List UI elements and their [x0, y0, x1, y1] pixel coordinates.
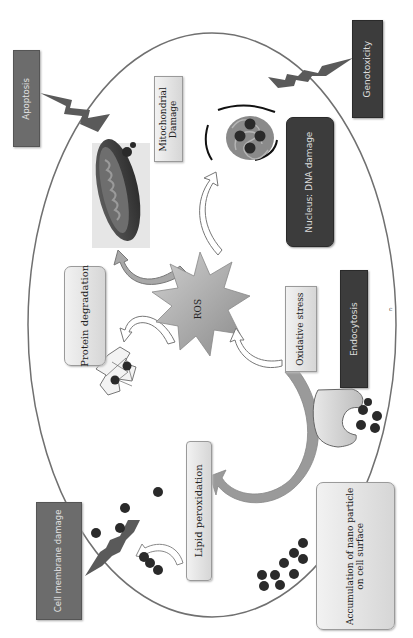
- arrow-oxidative-to-lipid: [210, 368, 319, 503]
- accumulation-line2: on cell surface: [356, 487, 366, 625]
- cell-membrane-damage-label: Cell membrane damage: [36, 502, 82, 620]
- nucleus-dna-damage-label: Nucleus: DNA damage: [286, 117, 334, 247]
- ros-label: ROS: [193, 299, 203, 319]
- diagram-canvas: Apoptosis Genotoxicity Cell membrane dam…: [0, 0, 413, 638]
- protein-degradation-label: Protein degradation: [64, 266, 106, 366]
- nucleus-icon: [206, 105, 277, 160]
- accumulation-label: Accumulation of nano particle on cell su…: [316, 482, 395, 630]
- stray-mark: c: [389, 305, 392, 312]
- accumulation-line1: Accumulation of nano particle: [345, 487, 355, 625]
- genotoxicity-label: Genotoxicity: [352, 20, 383, 118]
- mitochondrion-icon: [88, 135, 150, 248]
- mitochondrial-damage-label: Mitochondrial Damage: [154, 76, 183, 162]
- endocytosis-label: Endocytosis: [340, 270, 368, 388]
- apoptosis-label: Apoptosis: [13, 50, 40, 147]
- lightning-apoptosis-icon: [40, 93, 110, 132]
- arrow-ros-to-nucleus: [200, 172, 222, 255]
- oxidative-stress-label: Oxidative stress: [285, 286, 317, 372]
- arrow-oxidative-to-ros: [230, 328, 282, 368]
- nanoparticles-surface: [257, 538, 308, 591]
- lipid-peroxidation-label: Lipid peroxidation: [186, 441, 212, 581]
- endocytosis-vesicle-icon: [313, 389, 363, 447]
- lightning-genotoxicity-icon: [268, 58, 353, 88]
